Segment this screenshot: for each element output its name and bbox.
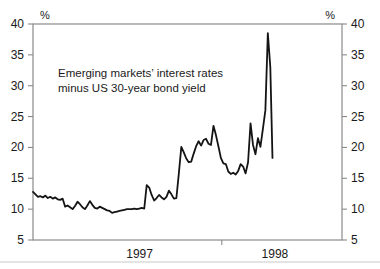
y-tick-label-right: 5	[351, 233, 358, 247]
y-tick-label-right: 35	[351, 48, 365, 62]
y-tick-label-left: 25	[11, 110, 25, 124]
y-tick-label-left: 20	[11, 140, 25, 154]
y-tick-label-right: 40	[351, 17, 365, 31]
y-tick-label-right: 30	[351, 79, 365, 93]
chart-svg: % % 551010151520202525303035354040 19971…	[0, 0, 380, 269]
y-tick-label-left: 35	[11, 48, 25, 62]
x-tick-label-1997: 1997	[126, 247, 153, 261]
y-tick-label-left: 10	[11, 202, 25, 216]
y-tick-label-left: 40	[11, 17, 25, 31]
y-tick-label-right: 20	[351, 140, 365, 154]
y-tick-label-right: 25	[351, 110, 365, 124]
y-tick-label-left: 15	[11, 171, 25, 185]
y-tick-label-left: 30	[11, 79, 25, 93]
y-tick-label-left: 5	[17, 233, 24, 247]
unit-label-right: %	[325, 9, 335, 21]
chart-annotation-line-2: minus US 30-year bond yield	[58, 82, 206, 94]
chart-background	[0, 0, 380, 269]
x-tick-label-1998: 1998	[262, 247, 289, 261]
y-tick-label-right: 15	[351, 171, 365, 185]
y-tick-label-right: 10	[351, 202, 365, 216]
chart-annotation-line-1: Emerging markets’ interest rates	[58, 67, 223, 79]
chart-figure: % % 551010151520202525303035354040 19971…	[0, 0, 380, 269]
unit-label-left: %	[40, 9, 50, 21]
